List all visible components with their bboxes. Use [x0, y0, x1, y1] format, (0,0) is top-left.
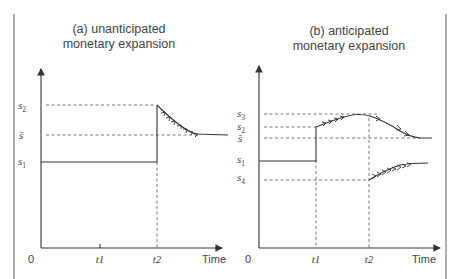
exchange-rate-path-a [41, 105, 157, 162]
label-origin-a: 0 [28, 253, 34, 265]
panel-b-title-2: monetary expansion [293, 39, 406, 53]
label-sbar-a: s̄ [19, 129, 24, 141]
label-s1-a: s1 [18, 155, 26, 170]
adjustment-path-b-upper [316, 115, 432, 139]
exchange-rate-path-b [259, 127, 316, 161]
label-time-b: Time [412, 253, 436, 265]
label-t1-b: t1 [312, 253, 321, 265]
panel-a-title-1: (a) unanticipated [72, 22, 165, 36]
figure: (a) unanticipated monetary expansion s2 … [0, 0, 454, 279]
panel-b-title-1: (b) anticipated [309, 24, 388, 38]
label-s4-b: s4 [237, 171, 245, 186]
label-t2-b: t2 [365, 253, 374, 265]
label-origin-b: 0 [245, 253, 251, 265]
panel-a: (a) unanticipated monetary expansion s2 … [18, 22, 228, 265]
panel-a-title-2: monetary expansion [63, 37, 176, 51]
label-t1-a: t1 [96, 253, 105, 265]
adjustment-path-a [157, 105, 228, 135]
label-s1-b: s1 [237, 153, 245, 168]
label-time-a: Time [202, 253, 226, 265]
panel-b: (b) anticipated monetary expansion [237, 24, 440, 265]
label-s2-a: s2 [18, 99, 26, 114]
label-t2-a: t2 [153, 253, 162, 265]
arrow-chevrons-b [322, 116, 411, 179]
label-sbar-b: s̄ [238, 132, 243, 144]
